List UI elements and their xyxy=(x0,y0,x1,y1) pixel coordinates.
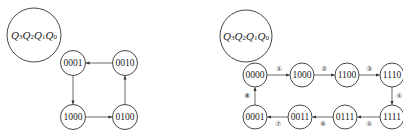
step-label-8: ⑧ xyxy=(244,92,250,100)
svg-text:0010: 0010 xyxy=(116,58,135,68)
step-label-3: ③ xyxy=(366,65,372,73)
state-node-1000: 1000 xyxy=(61,105,86,130)
state-node-0100: 0100 xyxy=(113,105,138,130)
left-header-node: Q3Q2Q1Q0 xyxy=(7,8,61,62)
svg-text:Q3Q2Q1Q0: Q3Q2Q1Q0 xyxy=(11,29,57,41)
state-diagram-canvas: Q3Q2Q1Q0 0001 0010 1000 0100 Q3Q xyxy=(0,0,403,140)
svg-text:③: ③ xyxy=(366,65,372,73)
step-label-6: ⑥ xyxy=(320,120,326,128)
svg-text:0001: 0001 xyxy=(246,112,265,122)
svg-text:1111: 1111 xyxy=(383,112,401,122)
svg-text:⑦: ⑦ xyxy=(275,120,281,128)
svg-text:Q3Q2Q1Q0: Q3Q2Q1Q0 xyxy=(223,30,269,42)
svg-text:1000: 1000 xyxy=(293,70,312,80)
state-node-0001: 0001 xyxy=(243,105,267,129)
svg-text:②: ② xyxy=(321,65,327,73)
step-label-7: ⑦ xyxy=(275,120,281,128)
svg-text:④: ④ xyxy=(396,92,402,100)
state-node-1100: 1100 xyxy=(335,63,359,87)
left-state-diagram: Q3Q2Q1Q0 0001 0010 1000 0100 xyxy=(7,8,138,130)
svg-text:0100: 0100 xyxy=(116,112,135,122)
svg-text:⑥: ⑥ xyxy=(320,120,326,128)
svg-text:0011: 0011 xyxy=(291,112,310,122)
state-node-0011: 0011 xyxy=(288,105,312,129)
step-label-2: ② xyxy=(321,65,327,73)
step-label-5: ⑤ xyxy=(366,120,372,128)
svg-text:0111: 0111 xyxy=(336,112,355,122)
step-label-1: ① xyxy=(276,65,282,73)
state-node-0000: 0000 xyxy=(243,63,267,87)
svg-text:0001: 0001 xyxy=(64,58,83,68)
svg-text:1000: 1000 xyxy=(64,112,83,122)
state-node-0010: 0010 xyxy=(113,51,138,76)
svg-text:1100: 1100 xyxy=(338,70,357,80)
state-node-1000: 1000 xyxy=(290,63,314,87)
step-label-4: ④ xyxy=(396,92,402,100)
state-node-1111: 1111 xyxy=(380,105,403,129)
state-node-0111: 0111 xyxy=(333,105,357,129)
svg-text:1110: 1110 xyxy=(383,70,402,80)
svg-text:0000: 0000 xyxy=(246,70,265,80)
svg-text:①: ① xyxy=(276,65,282,73)
svg-text:⑧: ⑧ xyxy=(244,92,250,100)
right-state-diagram: Q3Q2Q1Q0 ① ② ③ ④ ⑤ ⑥ xyxy=(220,10,403,129)
state-node-0001: 0001 xyxy=(61,51,86,76)
right-header-node: Q3Q2Q1Q0 xyxy=(220,10,272,62)
svg-text:⑤: ⑤ xyxy=(366,120,372,128)
state-node-1110: 1110 xyxy=(380,63,403,87)
